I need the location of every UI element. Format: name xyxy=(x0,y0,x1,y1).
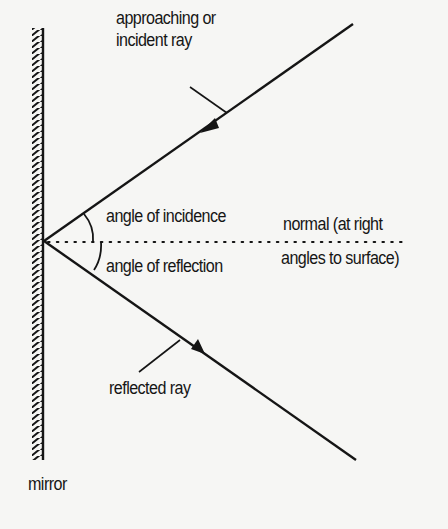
normal-label-line1: normal (at right xyxy=(283,214,382,235)
incident-ray-label-line1: approaching or xyxy=(116,8,216,29)
mirror-hatching xyxy=(32,28,43,460)
angle-of-reflection-arc xyxy=(94,242,101,270)
incident-ray-label-line2: incident ray xyxy=(116,30,192,51)
angle-of-incidence-arc xyxy=(84,214,93,241)
normal-label-line2: angles to surface) xyxy=(281,248,399,269)
mirror-label: mirror xyxy=(28,474,67,495)
reflected-ray-leader xyxy=(139,340,180,372)
angle-of-incidence-label: angle of incidence xyxy=(106,206,226,227)
reflected-ray-label: reflected ray xyxy=(109,378,190,399)
mirror xyxy=(32,28,43,460)
reflected-ray-arrow-icon xyxy=(191,339,205,354)
incident-ray-leader xyxy=(190,87,227,113)
angle-of-reflection-label: angle of reflection xyxy=(106,256,223,277)
